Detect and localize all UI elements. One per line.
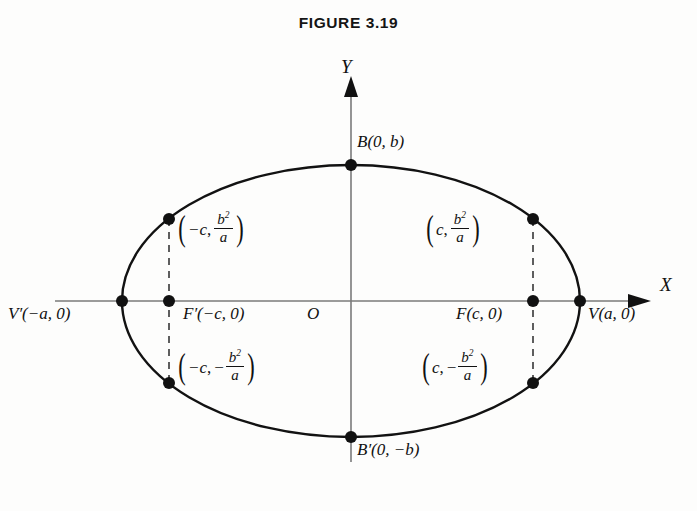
label-latus-upper-right: ( c , b2 a ): [424, 212, 482, 247]
label-covertex-top: B(0, b): [357, 133, 404, 150]
label-focus-left: F′(−c, 0): [183, 305, 244, 322]
point-vertex-left: [116, 295, 128, 307]
fraction-b2-over-a: b2 a: [226, 349, 244, 384]
fraction-b2-over-a: b2 a: [451, 211, 469, 246]
paren-close: ): [247, 352, 254, 380]
point-covertex-bottom: [345, 431, 357, 443]
point-latus-upper-right: [527, 213, 539, 225]
y-axis-label: Y: [341, 57, 352, 76]
point-vertex-right: [574, 295, 586, 307]
paren-close: ): [236, 214, 243, 242]
label-focus-right: F(c, 0): [456, 305, 502, 322]
point-focus-right: [527, 295, 539, 307]
x-axis-label: X: [660, 275, 672, 294]
origin-label: O: [307, 305, 319, 322]
point-latus-upper-left: [163, 213, 175, 225]
point-focus-left: [163, 295, 175, 307]
paren-open: (: [426, 214, 433, 242]
paren-open: (: [422, 352, 429, 380]
label-latus-upper-left: ( −c , b2 a ): [176, 212, 246, 247]
label-vertex-right: V(a, 0): [588, 305, 635, 322]
paren-close: ): [472, 214, 479, 242]
paren-close: ): [480, 352, 487, 380]
label-vertex-left: V′(−a, 0): [8, 305, 70, 322]
point-covertex-top: [345, 159, 357, 171]
comma: ,: [207, 221, 213, 238]
label-covertex-bottom: B′(0, −b): [357, 441, 419, 458]
label-latus-lower-left: ( −c , − b2 a ): [176, 350, 257, 385]
paren-open: (: [178, 352, 185, 380]
fraction-b2-over-a: b2 a: [458, 349, 476, 384]
paren-open: (: [178, 214, 185, 242]
y-axis-arrowhead: [344, 76, 358, 97]
point-latus-lower-right: [527, 377, 539, 389]
comma: ,: [444, 221, 450, 238]
label-latus-lower-right: ( c , − b2 a ): [420, 350, 490, 385]
fraction-b2-over-a: b2 a: [214, 211, 232, 246]
point-latus-lower-left: [163, 377, 175, 389]
figure-container: FIGURE 3.19 X Y O B(0, b) B′(0, −b) V′(−…: [0, 0, 697, 511]
